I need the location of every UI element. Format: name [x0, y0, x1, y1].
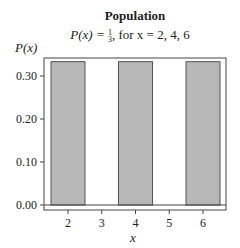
bar — [119, 62, 153, 205]
x-tick-label: 3 — [99, 216, 105, 230]
x-tick-label: 5 — [166, 216, 172, 230]
bar-chart-plot: 0.000.100.200.3023456 — [0, 0, 240, 248]
x-tick-label: 2 — [65, 216, 71, 230]
x-tick-label: 4 — [133, 216, 139, 230]
y-tick-label: 0.10 — [16, 155, 37, 169]
bar — [51, 62, 85, 205]
y-tick-label: 0.00 — [16, 198, 37, 212]
y-tick-label: 0.20 — [16, 112, 37, 126]
y-tick-label: 0.30 — [16, 69, 37, 83]
x-tick-label: 6 — [200, 216, 206, 230]
bar — [186, 62, 220, 205]
